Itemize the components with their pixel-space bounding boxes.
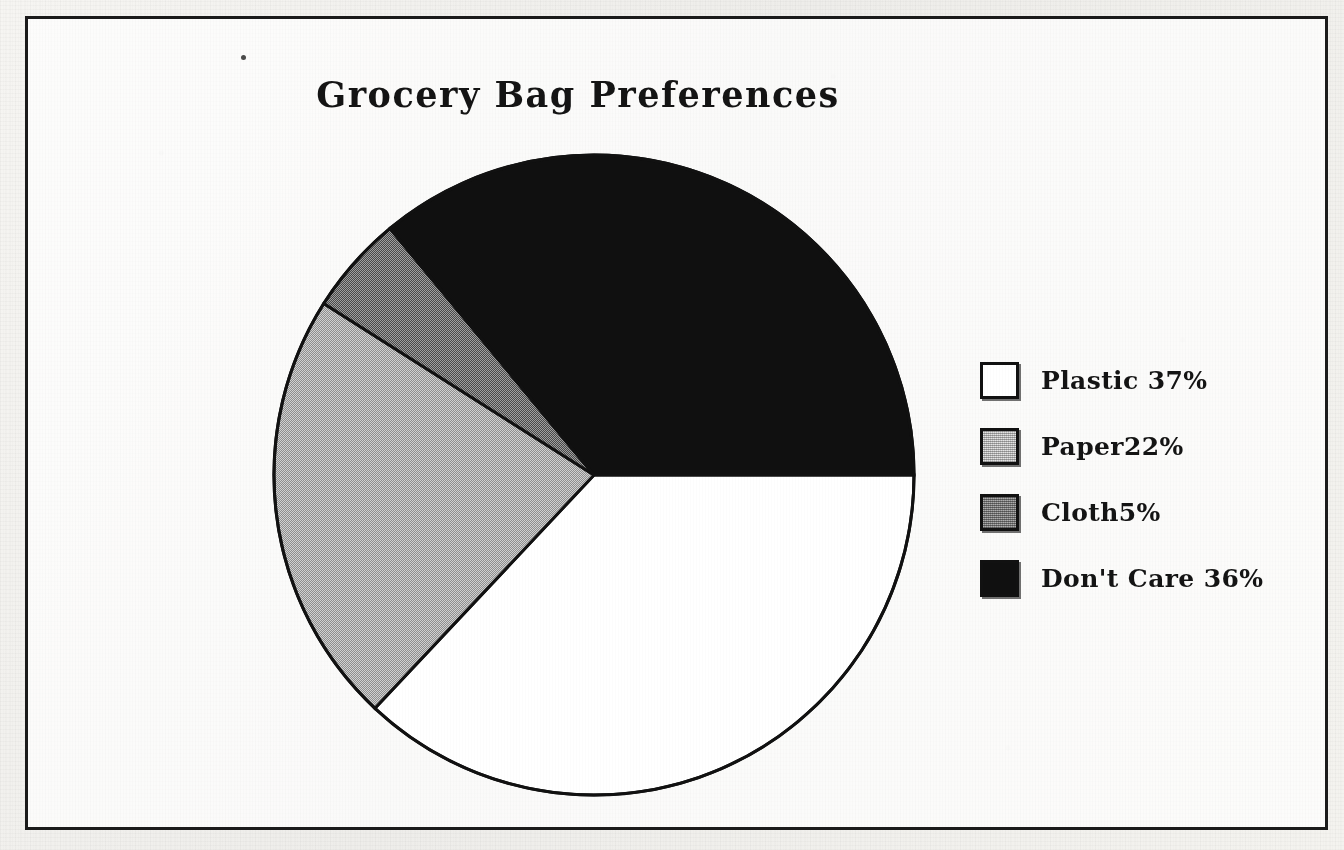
scanned-chart-page: Grocery Bag Preferences: [0, 0, 1344, 850]
scan-speck-icon: [241, 55, 246, 60]
chart-title: Grocery Bag Preferences: [28, 74, 1128, 115]
legend: Plastic 37% Paper22% Cloth5% Don't Care …: [980, 347, 1280, 611]
legend-swatch-paper-icon: [980, 428, 1019, 465]
legend-swatch-dont-care-icon: [980, 560, 1019, 597]
legend-item-paper: Paper22%: [980, 413, 1280, 479]
legend-item-plastic: Plastic 37%: [980, 347, 1280, 413]
legend-item-dont-care: Don't Care 36%: [980, 545, 1280, 611]
pie-chart: [272, 153, 916, 797]
legend-swatch-plastic-icon: [980, 362, 1019, 399]
legend-label-paper: Paper22%: [1041, 432, 1184, 461]
legend-label-plastic: Plastic 37%: [1041, 366, 1208, 395]
legend-label-dont-care: Don't Care 36%: [1041, 564, 1263, 593]
legend-item-cloth: Cloth5%: [980, 479, 1280, 545]
chart-frame-border: Grocery Bag Preferences: [25, 16, 1328, 830]
legend-swatch-cloth-icon: [980, 494, 1019, 531]
legend-label-cloth: Cloth5%: [1041, 498, 1161, 527]
pie-chart-svg: [272, 153, 916, 797]
